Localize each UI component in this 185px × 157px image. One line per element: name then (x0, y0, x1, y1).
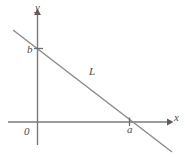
y-axis-label: y (35, 2, 40, 13)
origin-label: 0 (24, 126, 30, 137)
x-axis-label: x (174, 112, 179, 123)
x-intercept-label: a (127, 124, 133, 135)
x-axis-arrowhead (167, 119, 174, 126)
line-name-label: L (89, 66, 95, 77)
line-intercepts-figure: y x b a L 0 (0, 0, 185, 157)
y-intercept-label: b (27, 44, 33, 55)
